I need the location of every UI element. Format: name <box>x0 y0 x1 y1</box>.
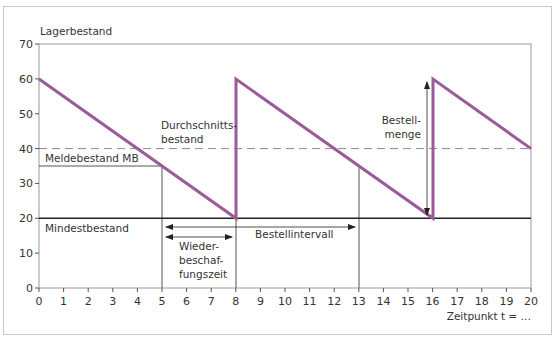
bestellmenge-label-2: menge <box>385 128 421 140</box>
y-axis-title: Lagerbestand <box>40 25 112 37</box>
bestellintervall-label: Bestellintervall <box>255 228 334 240</box>
x-tick-label: 15 <box>401 295 415 308</box>
x-tick-label: 5 <box>159 295 166 308</box>
y-tick-label: 40 <box>19 143 33 156</box>
x-tick-label: 3 <box>109 295 116 308</box>
mindestbestand-label: Mindestbestand <box>45 222 129 234</box>
durchschnittsbestand-label-1: Durchschnitts- <box>161 119 237 131</box>
x-tick-label: 11 <box>303 295 317 308</box>
x-tick-label: 17 <box>450 295 464 308</box>
x-tick-label: 9 <box>257 295 264 308</box>
y-tick-label: 50 <box>19 108 33 121</box>
x-axis: 01234567891011121314151617181920 <box>36 288 539 308</box>
y-axis: 010203040506070 <box>19 38 39 295</box>
x-tick-label: 2 <box>85 295 92 308</box>
bestellmenge-label-1: Bestell- <box>382 114 422 126</box>
x-tick-label: 16 <box>426 295 440 308</box>
x-tick-label: 12 <box>327 295 341 308</box>
x-tick-label: 0 <box>36 295 43 308</box>
x-tick-label: 7 <box>208 295 215 308</box>
x-tick-label: 6 <box>183 295 190 308</box>
x-tick-label: 14 <box>376 295 390 308</box>
wiederbeschaffungszeit-label-1: Wieder- <box>179 240 219 252</box>
y-tick-label: 30 <box>19 177 33 190</box>
x-tick-label: 10 <box>278 295 292 308</box>
x-tick-label: 4 <box>134 295 141 308</box>
meldebestand-label: Meldebestand MB <box>45 152 139 164</box>
durchschnittsbestand-label-2: bestand <box>161 133 203 145</box>
x-axis-title: Zeitpunkt t = … <box>447 310 531 322</box>
y-tick-label: 20 <box>19 212 33 225</box>
wiederbeschaffungszeit-label-3: fungszeit <box>179 268 227 280</box>
x-tick-label: 1 <box>60 295 67 308</box>
wiederbeschaffungszeit-label-2: beschaf- <box>179 254 224 266</box>
inventory-chart: 010203040506070 012345678910111213141516… <box>0 0 555 343</box>
x-tick-label: 19 <box>499 295 513 308</box>
y-tick-label: 0 <box>26 282 33 295</box>
x-tick-label: 20 <box>524 295 538 308</box>
x-tick-label: 8 <box>232 295 239 308</box>
x-tick-label: 13 <box>352 295 366 308</box>
x-tick-label: 18 <box>475 295 489 308</box>
y-tick-label: 10 <box>19 247 33 260</box>
y-tick-label: 70 <box>19 38 33 51</box>
y-tick-label: 60 <box>19 73 33 86</box>
